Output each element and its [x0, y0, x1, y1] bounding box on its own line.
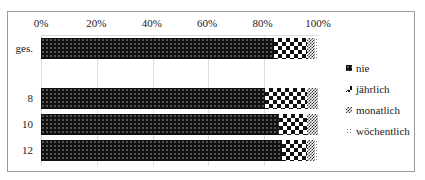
bar-segment-jährlich [265, 88, 307, 109]
row-label: ges. [5, 42, 33, 54]
row-label: 8 [5, 92, 33, 104]
stacked-bar [41, 114, 318, 135]
legend-swatch-icon [346, 65, 352, 71]
x-tick-label: 0% [34, 17, 49, 29]
legend-item: wöchentlich [346, 120, 410, 141]
legend: niejährlichmonatlichwöchentlich [346, 57, 410, 141]
x-tick-label: 40% [142, 17, 162, 29]
bar-segment-nie [41, 140, 282, 161]
bar-segment-wöchentlich [315, 38, 318, 59]
bar-segment-jährlich [279, 114, 307, 135]
legend-swatch-icon [346, 128, 352, 134]
stacked-bar [41, 38, 318, 59]
bar-segment-nie [41, 88, 265, 109]
bar-segment-jährlich [282, 140, 307, 161]
x-tick-label: 80% [253, 17, 273, 29]
x-tick-label: 60% [197, 17, 217, 29]
bar-segment-nie [41, 38, 274, 59]
x-tick-label: 20% [86, 17, 106, 29]
row-label: 10 [5, 118, 33, 130]
legend-swatch-icon [346, 86, 352, 92]
legend-label: jährlich [356, 83, 390, 95]
stacked-bar [41, 140, 318, 161]
legend-label: nie [356, 62, 369, 74]
bar-segment-monatlich [307, 88, 318, 109]
legend-label: monatlich [356, 104, 400, 116]
legend-item: nie [346, 57, 410, 78]
bar-segment-monatlich [307, 38, 315, 59]
stacked-bar [41, 88, 318, 109]
legend-swatch-icon [346, 107, 352, 113]
bar-segment-nie [41, 114, 279, 135]
bar-segment-wöchentlich [315, 140, 318, 161]
legend-label: wöchentlich [356, 125, 410, 137]
legend-item: monatlich [346, 99, 410, 120]
legend-item: jährlich [346, 78, 410, 99]
bar-segment-jährlich [274, 38, 307, 59]
row-label: 12 [5, 144, 33, 156]
bar-segment-monatlich [307, 140, 315, 161]
x-tick-label: 100% [305, 17, 331, 29]
bar-segment-monatlich [307, 114, 318, 135]
